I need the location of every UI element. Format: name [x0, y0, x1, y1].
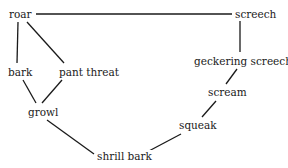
edge-pant-threat-growl [42, 80, 62, 103]
node-geckering-screech: geckering screech [193, 55, 288, 67]
node-screech: screech [234, 8, 277, 20]
node-squeak: squeak [178, 119, 218, 131]
node-pant-threat: pant threat [58, 66, 120, 78]
edge-roar-bark [17, 22, 18, 63]
edge-growl-shrill-bark [47, 120, 94, 154]
node-bark: bark [7, 66, 33, 78]
vocalization-diagram: roar screech bark pant threat geckering … [0, 0, 288, 168]
edges [0, 0, 288, 168]
node-shrill-bark: shrill bark [96, 150, 153, 162]
edge-roar-pant-threat [27, 22, 64, 63]
node-growl: growl [27, 106, 59, 118]
edge-bark-growl [23, 80, 36, 103]
edge-scream-squeak [202, 101, 216, 117]
node-roar: roar [8, 8, 33, 20]
edge-geckering-scream [226, 69, 237, 84]
node-scream: scream [207, 86, 248, 98]
